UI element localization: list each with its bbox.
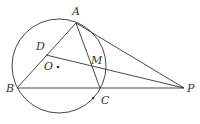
- segment-DP: [46, 55, 184, 88]
- label-B: B: [5, 82, 14, 95]
- label-A: A: [71, 5, 80, 18]
- label-C: C: [101, 94, 110, 107]
- label-O: O: [44, 60, 53, 73]
- diagram-canvas: ABCPDMO: [0, 0, 200, 124]
- dots: [57, 66, 95, 100]
- label-M: M: [90, 54, 103, 67]
- label-D: D: [35, 40, 45, 53]
- point-labels: ABCPDMO: [5, 5, 195, 107]
- label-P: P: [186, 82, 195, 95]
- geometry-diagram: ABCPDMO: [0, 0, 200, 124]
- dot-arc-point: [92, 97, 95, 100]
- dot-center-O: [57, 66, 60, 69]
